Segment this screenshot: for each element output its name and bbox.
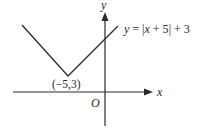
x-axis-label: x bbox=[156, 85, 163, 99]
origin-label: O bbox=[91, 96, 100, 110]
x-axis-arrow-icon bbox=[144, 89, 153, 96]
function-label: y = |x + 5| + 3 bbox=[123, 22, 190, 36]
y-axis-label: y bbox=[100, 0, 107, 12]
y-axis-arrow-icon bbox=[102, 12, 109, 21]
function-curve bbox=[22, 25, 118, 76]
function-label-plus5: + 5 bbox=[150, 22, 169, 36]
vertex-label: (−5,3) bbox=[52, 78, 81, 91]
function-label-plus3: + 3 bbox=[171, 22, 190, 36]
function-graph: y x O (−5,3) y = |x + 5| + 3 bbox=[0, 0, 202, 130]
function-label-eq: = bbox=[129, 22, 142, 36]
